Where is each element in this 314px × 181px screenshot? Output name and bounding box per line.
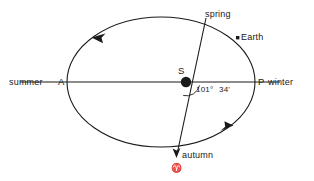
earth-marker — [236, 36, 239, 39]
orbit-direction-arrow-lower-right — [221, 121, 234, 131]
autumn-direction-arrow — [173, 148, 181, 158]
orbit-diagram: summer A P winter spring autumn Earth S … — [0, 0, 314, 181]
label-summer: summer — [9, 78, 43, 87]
label-angle-minutes: 34' — [219, 86, 230, 94]
label-autumn: autumn — [182, 151, 213, 160]
sun-marker — [181, 77, 191, 87]
label-sun-s: S — [178, 66, 185, 76]
label-winter: winter — [268, 78, 293, 87]
aries-symbol-icon: ♈ — [171, 164, 182, 173]
orbit-direction-arrow-upper-left — [92, 34, 106, 44]
label-perigee-point-p: P — [258, 77, 265, 87]
orbit-drawing-canvas — [0, 0, 314, 181]
label-angle-degrees: 101° — [196, 86, 213, 94]
label-earth: Earth — [241, 33, 264, 42]
label-spring: spring — [205, 10, 231, 19]
label-apogee-point-a: A — [58, 77, 65, 87]
